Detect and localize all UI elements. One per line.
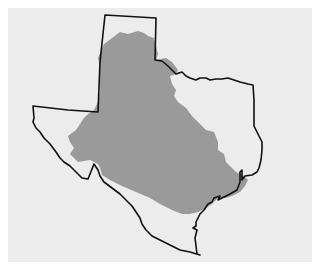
texas-map — [0, 0, 324, 275]
shaded-region — [68, 31, 248, 214]
